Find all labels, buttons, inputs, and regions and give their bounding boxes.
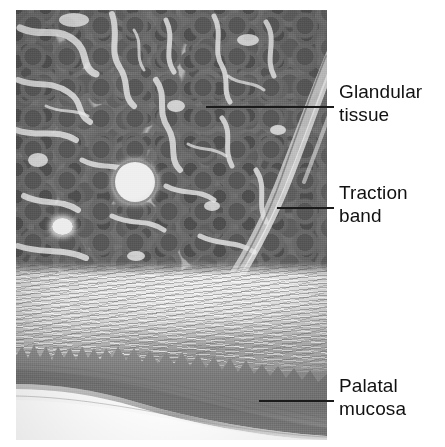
palatal-mucosa-region [16,340,327,440]
epithelium-shape [16,340,327,440]
leader-line-traction-band [277,207,334,209]
leader-line-glandular-tissue [206,106,334,108]
micrograph-image [16,10,327,440]
figure-root: Glandular tissue Traction band Palatal m… [0,0,445,447]
duct-lumen [115,162,155,202]
label-palatal-mucosa: Palatal mucosa [339,374,406,420]
leader-line-palatal-mucosa [259,400,334,402]
glandular-tissue-region [16,10,327,298]
label-traction-band: Traction band [339,181,408,227]
label-glandular-tissue: Glandular tissue [339,80,422,126]
small-lumen [52,218,73,235]
